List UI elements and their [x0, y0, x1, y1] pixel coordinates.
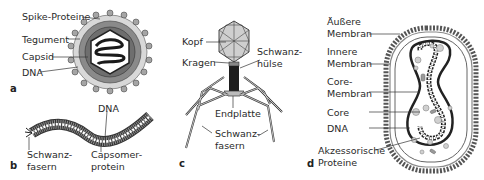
label-kragen: Kragen [182, 57, 216, 68]
label-capsomerprotein-line1: Capsomer- [91, 149, 142, 160]
label-innere-membran-line2: Membran [327, 58, 372, 69]
label-aeussere-membran-line1: Äußere [327, 16, 361, 27]
label-capsomerprotein-line2: protein [91, 161, 125, 172]
label-schwanzfasern-c-line1: Schwanz- [215, 128, 260, 139]
bacteriophage-drawing [160, 0, 320, 180]
label-innere-membran-line1: Innere [327, 46, 357, 57]
label-kopf: Kopf [182, 36, 203, 47]
label-dna-b: DNA [98, 103, 119, 114]
label-dna-d: DNA [327, 123, 348, 134]
label-schwanzfasern-c-line2: fasern [215, 140, 245, 151]
label-endplatte: Endplatte [215, 108, 261, 119]
label-schwanzfasern-b-line2: fasern [27, 161, 57, 172]
label-core-membran-line1: Core- [327, 76, 352, 87]
label-core: Core [327, 107, 349, 118]
panel-letter-b: b [10, 160, 17, 171]
panel-letter-d: d [307, 158, 314, 169]
panel-c-bacteriophage: Kopf Kragen Schwanz- hülse Endplatte Sch… [160, 0, 320, 180]
label-akzessorische-proteine-line1: Akzessorische [318, 145, 385, 156]
label-schwanzhuelse-line2: hülse [257, 58, 282, 69]
panel-b-filamentous-virus: DNA Schwanz- fasern Capsomer- protein b [0, 0, 160, 180]
panel-letter-c: c [179, 158, 185, 169]
label-akzessorische-proteine-line2: Proteine [318, 157, 357, 168]
label-aeussere-membran-line2: Membran [327, 28, 372, 39]
label-core-membran-line2: Membran [327, 88, 372, 99]
label-schwanzfasern-b-line1: Schwanz- [27, 149, 72, 160]
label-schwanzhuelse-line1: Schwanz- [257, 46, 302, 57]
panel-d-poxvirus: Äußere Membran Innere Membran Core- Memb… [320, 0, 484, 180]
